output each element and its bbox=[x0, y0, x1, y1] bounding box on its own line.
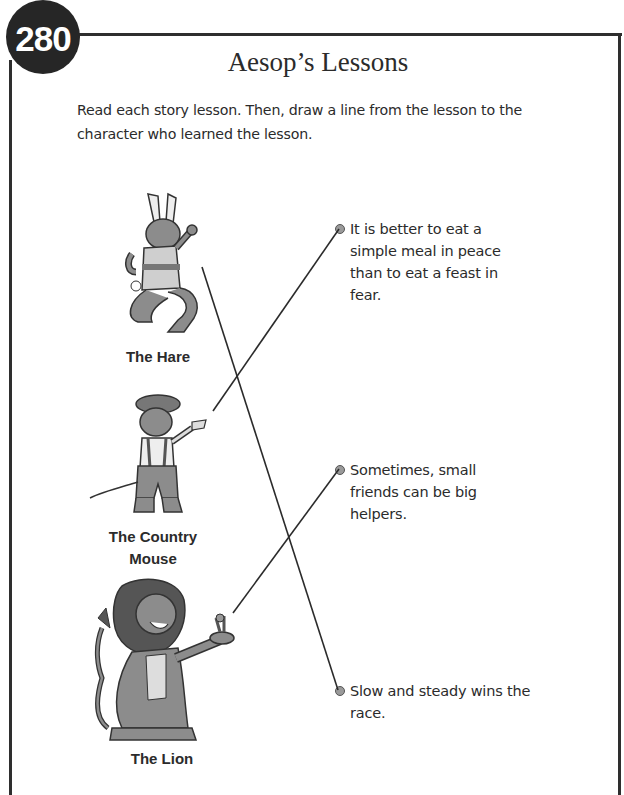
line-lesson1-to-mouse bbox=[213, 229, 339, 411]
line-hare-to-lesson3 bbox=[202, 267, 338, 690]
line-lesson2-to-lion bbox=[233, 469, 339, 613]
matching-lines bbox=[0, 0, 624, 795]
